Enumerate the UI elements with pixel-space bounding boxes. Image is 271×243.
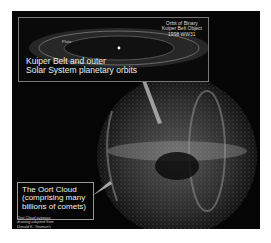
kuiper-title-line-2: Solar System planetary orbits [26, 66, 137, 75]
oort-line-3: billions of comets) [22, 203, 86, 211]
pluto-label: Pluto [62, 40, 71, 44]
oort-cloud-label-box: The Oort Cloud (comprising many billions… [17, 182, 94, 220]
binary-kbo-label: Orbit of Binary Kuiper Belt Object 1998 … [162, 21, 202, 37]
oort-cloud-label: The Oort Cloud (comprising many billions… [22, 186, 86, 211]
binary-line-3: 1998 WW31 [162, 32, 202, 37]
oort-cloud-illustration: Pluto Orbit of Binary Kuiper Belt Object… [12, 11, 260, 229]
kuiper-title: Kuiper Belt and outer Solar System plane… [26, 57, 137, 75]
image-credit: Oort Cloud cutaway drawing adapted from … [17, 216, 57, 229]
kuiper-belt-inset: Pluto Orbit of Binary Kuiper Belt Object… [18, 17, 209, 82]
